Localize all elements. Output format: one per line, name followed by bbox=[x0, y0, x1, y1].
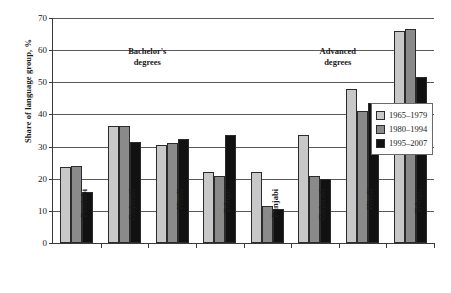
bar bbox=[156, 145, 167, 243]
x-axis-label: Gujarati bbox=[317, 189, 327, 249]
x-tick-mark bbox=[101, 243, 102, 248]
bar-group bbox=[196, 18, 244, 243]
legend-swatch-icon bbox=[376, 111, 385, 120]
y-tick-label: 70 bbox=[38, 13, 47, 23]
bar-group bbox=[244, 18, 292, 243]
x-axis-label: Telugu bbox=[222, 189, 232, 249]
bar-group bbox=[53, 18, 101, 243]
x-axis-label: Hindi bbox=[365, 189, 375, 249]
y-tick-mark bbox=[49, 243, 53, 244]
y-tick-label: 10 bbox=[38, 206, 47, 216]
legend: 1965–19791980–19941995–2007 bbox=[371, 103, 433, 155]
section-header: Bachelor'sdegrees bbox=[97, 46, 197, 68]
y-tick-label: 50 bbox=[38, 77, 47, 87]
bar bbox=[346, 89, 357, 243]
legend-swatch-icon bbox=[376, 139, 385, 148]
y-tick-label: 0 bbox=[43, 238, 48, 248]
y-tick-label: 30 bbox=[38, 142, 47, 152]
x-tick-mark bbox=[196, 243, 197, 248]
x-axis-label: Punjabi bbox=[270, 189, 280, 249]
y-tick-label: 20 bbox=[38, 174, 47, 184]
x-tick-mark bbox=[291, 243, 292, 248]
legend-label: 1965–1979 bbox=[389, 110, 427, 120]
x-tick-mark bbox=[244, 243, 245, 248]
x-tick-mark bbox=[386, 243, 387, 248]
section-header-line1: Advanced bbox=[288, 46, 388, 57]
legend-label: 1995–2007 bbox=[389, 138, 427, 148]
section-header-line2: degrees bbox=[288, 57, 388, 68]
y-axis-title: Share of language group, % bbox=[23, 11, 33, 171]
bar bbox=[298, 135, 309, 243]
bar bbox=[108, 126, 119, 243]
legend-swatch-icon bbox=[376, 125, 385, 134]
x-axis-label: Gujarati bbox=[127, 189, 137, 249]
legend-item[interactable]: 1995–2007 bbox=[376, 136, 427, 150]
x-axis-label: Hindi bbox=[175, 189, 185, 249]
x-axis-label: Telugu bbox=[413, 189, 423, 249]
bar-chart: Share of language group, % 0102030405060… bbox=[0, 0, 451, 293]
bar bbox=[251, 172, 262, 243]
x-tick-mark bbox=[434, 243, 435, 248]
x-tick-mark bbox=[148, 243, 149, 248]
section-header: Advanceddegrees bbox=[288, 46, 388, 68]
section-header-line2: degrees bbox=[97, 57, 197, 68]
legend-label: 1980–1994 bbox=[389, 124, 427, 134]
bar bbox=[203, 172, 214, 243]
x-axis-label: Punjabi bbox=[79, 189, 89, 249]
section-header-line1: Bachelor's bbox=[97, 46, 197, 57]
x-tick-mark bbox=[339, 243, 340, 248]
y-tick-label: 40 bbox=[38, 109, 47, 119]
y-tick-label: 60 bbox=[38, 45, 47, 55]
bar bbox=[60, 167, 71, 243]
legend-item[interactable]: 1980–1994 bbox=[376, 122, 427, 136]
legend-item[interactable]: 1965–1979 bbox=[376, 108, 427, 122]
